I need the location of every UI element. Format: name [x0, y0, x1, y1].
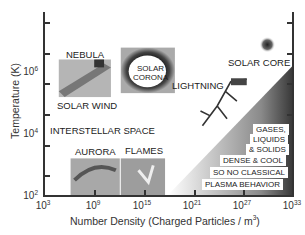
- x-tick: [243, 190, 245, 195]
- x-tick-label-1e3: 103: [28, 200, 58, 211]
- x-tick: [144, 190, 146, 195]
- x-tick-label-1e15: 1015: [127, 200, 157, 211]
- plot-area: NEBULA SOLAR WIND SOLAR CORONA LIGHTNING…: [43, 12, 294, 197]
- y-tick: [45, 145, 50, 147]
- y-tick-right: [287, 22, 292, 24]
- x-tick-label-1e9: 109: [78, 200, 108, 211]
- label-lightning: LIGHTNING: [172, 80, 224, 91]
- y-tick: [45, 83, 50, 85]
- y-tick: [45, 22, 50, 24]
- label-nebula: NEBULA: [66, 49, 104, 60]
- note-line-3: & SOLIDS: [246, 144, 289, 155]
- label-solar-corona-1: SOLAR: [137, 64, 164, 73]
- note-line-4: DENSE & COOL: [220, 155, 286, 166]
- y-tick-right: [287, 53, 292, 55]
- label-solar-corona-2: CORONA: [133, 73, 168, 82]
- y-tick: [45, 53, 50, 55]
- y-tick-label-1e6: 106: [8, 66, 38, 77]
- y-tick-label-1e4: 104: [8, 128, 38, 139]
- x-axis-label: Number Density (Charged Particles / m3): [70, 215, 260, 227]
- note-line-6: PLASMA BEHAVIOR: [202, 179, 283, 190]
- label-flames: FLAMES: [125, 145, 163, 156]
- x-tick-label-1e33: 1033: [277, 200, 305, 211]
- label-solar-core: SOLAR CORE: [228, 57, 290, 68]
- label-interstellar-space: INTERSTELLAR SPACE: [50, 125, 155, 136]
- y-tick-right: [287, 83, 292, 85]
- label-aurora: AURORA: [75, 146, 116, 157]
- note-line-5: SO NO CLASSICAL: [210, 167, 288, 178]
- y-axis-label: Temperature (K): [9, 46, 21, 156]
- x-tick-label-1e21: 1021: [177, 200, 207, 211]
- x-tick-label-1e27: 1027: [227, 200, 257, 211]
- label-solar-wind: SOLAR WIND: [57, 100, 117, 111]
- y-tick: [45, 175, 50, 177]
- y-tick: [45, 114, 50, 116]
- x-tick: [94, 190, 96, 195]
- x-tick: [194, 190, 196, 195]
- y-tick-right: [287, 114, 292, 116]
